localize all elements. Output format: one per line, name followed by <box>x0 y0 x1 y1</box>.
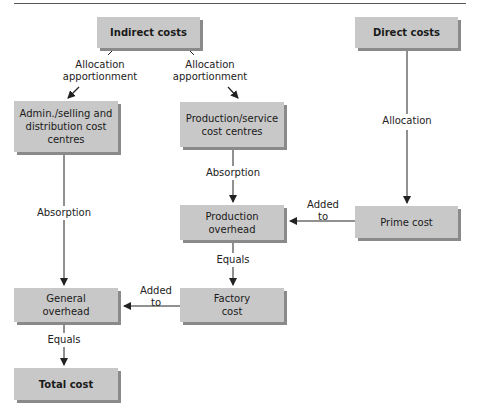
edge-label-allocation-apportionment-left: Allocation apportionment <box>62 59 138 83</box>
node-production-overhead: Production overhead <box>180 205 284 240</box>
node-production-service-centres: Production/service cost centres <box>180 102 284 147</box>
node-total-cost-label: Total cost <box>39 378 93 391</box>
edge-label-added-prime-line2: to <box>305 211 341 223</box>
edge-label-alloc-left-line1: Allocation <box>62 59 138 71</box>
edge-label-alloc-right-line1: Allocation <box>172 59 248 71</box>
edge-label-equals-left: Equals <box>44 334 84 346</box>
node-factory-cost-line1: Factory <box>214 292 251 305</box>
node-general-overhead: General overhead <box>14 288 118 322</box>
node-prime-cost: Prime cost <box>355 206 458 238</box>
node-factory-cost: Factory cost <box>180 288 284 322</box>
edge-label-added-factory-line1: Added <box>138 285 174 297</box>
node-factory-cost-line2: cost <box>222 305 243 318</box>
edge-label-alloc-left-line2: apportionment <box>62 71 138 83</box>
edge-label-alloc-right-line2: apportionment <box>172 71 248 83</box>
edge-label-equals-center: Equals <box>213 254 253 266</box>
edge-label-absorption-left: Absorption <box>34 207 94 219</box>
node-production-overhead-line2: overhead <box>208 223 255 236</box>
edge-label-equals-left-text: Equals <box>47 334 80 345</box>
edge-label-absorption-center-text: Absorption <box>206 167 260 178</box>
node-admin-distribution-centres: Admin./selling and distribution cost cen… <box>14 101 118 152</box>
edge-label-absorption-center: Absorption <box>203 167 263 179</box>
node-prime-cost-label: Prime cost <box>380 216 433 229</box>
edge-label-equals-center-text: Equals <box>216 254 249 265</box>
node-production-service-line2: cost centres <box>201 125 262 138</box>
edge-label-allocation-apportionment-right: Allocation apportionment <box>172 59 248 83</box>
edge-label-absorption-left-text: Absorption <box>37 207 91 218</box>
node-production-service-line1: Production/service <box>186 112 278 125</box>
node-general-overhead-line2: overhead <box>42 305 89 318</box>
node-indirect-costs-label: Indirect costs <box>110 26 187 39</box>
node-admin-line1: Admin./selling and <box>20 107 113 120</box>
edge-label-direct-allocation: Allocation <box>380 115 434 127</box>
node-total-cost: Total cost <box>14 368 118 400</box>
edge-label-added-to-factory: Added to <box>138 285 174 309</box>
node-indirect-costs: Indirect costs <box>97 17 200 48</box>
node-production-overhead-line1: Production <box>205 210 258 223</box>
edge-label-added-to-prime: Added to <box>305 199 341 223</box>
node-general-overhead-line1: General <box>46 292 85 305</box>
node-direct-costs-label: Direct costs <box>373 26 440 39</box>
edge-label-direct-allocation-text: Allocation <box>382 115 431 126</box>
edge-label-added-prime-line1: Added <box>305 199 341 211</box>
node-admin-line2: distribution cost <box>26 120 107 133</box>
node-admin-line3: centres <box>47 133 84 146</box>
node-direct-costs: Direct costs <box>355 17 458 48</box>
edge-label-added-factory-line2: to <box>138 297 174 309</box>
